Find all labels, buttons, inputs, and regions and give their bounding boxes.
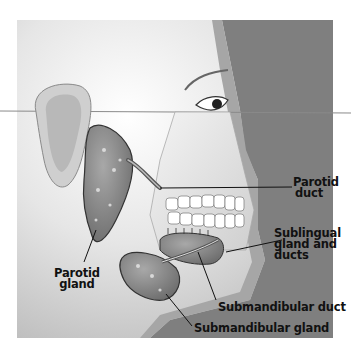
label-parotid-gland: Parotid gland [54,268,100,290]
label-sublingual-gland: Sublingual gland and ducts [274,228,341,261]
salivary-glands-illustration: Parotid duct Sublingual gland and ducts … [0,0,351,356]
label-submandibular-duct: Submandibular duct [218,302,346,313]
label-parotid-duct: Parotid duct [293,177,339,199]
label-submandibular-gland: Submandibular gland [194,323,329,334]
pupil [212,99,222,109]
